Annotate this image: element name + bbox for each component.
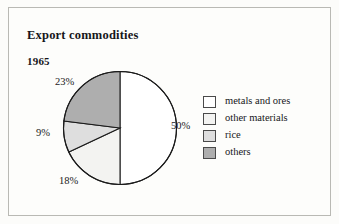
legend-swatch-icon (203, 96, 216, 108)
legend-label: others (225, 147, 251, 158)
page-title: Export commodities (27, 28, 139, 43)
year-label: 1965 (27, 55, 50, 67)
slice-label-rice: 9% (36, 127, 50, 138)
legend-label: rice (225, 130, 241, 141)
legend-item-rice: rice (203, 127, 290, 144)
legend-swatch-icon (203, 147, 216, 159)
pie-svg (60, 68, 180, 188)
legend-item-others: others (203, 144, 290, 161)
legend-label: other materials (225, 113, 288, 124)
legend: metals and ores other materials rice oth… (203, 93, 290, 161)
legend-label: metals and ores (225, 96, 290, 107)
pie-slice (120, 72, 177, 185)
slice-label-others: 23% (55, 76, 74, 87)
legend-item-other-materials: other materials (203, 110, 290, 127)
legend-item-metals-and-ores: metals and ores (203, 93, 290, 110)
pie-graphic (60, 68, 180, 188)
legend-swatch-icon (203, 130, 216, 142)
pie-chart-figure: Export commodities 1965 50% 18% 9% 23% m… (0, 0, 339, 224)
slice-label-other-materials: 18% (59, 175, 78, 186)
legend-swatch-icon (203, 113, 216, 125)
slice-label-metals-and-ores: 50% (171, 120, 190, 131)
